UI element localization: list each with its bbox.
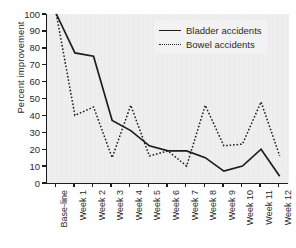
x-tick-label: Base-line [59,190,69,228]
y-tick-mark [42,182,46,183]
y-tick-mark [42,115,46,116]
x-tick-mark [129,183,130,187]
y-tick-mark [42,64,46,65]
y-tick-mark [42,81,46,82]
legend-item: Bladder accidents [159,23,262,37]
x-tick-mark [278,183,279,187]
x-tick-mark [148,183,149,187]
x-tick-mark [241,183,242,187]
x-tick-mark [185,183,186,187]
y-tick-label: 10 [14,160,40,173]
y-tick-label: 90 [14,24,40,37]
x-tick-mark [55,183,56,187]
legend-item-label: Bowel accidents [186,39,255,50]
chart-legend: Bladder accidents Bowel accidents [155,20,267,54]
x-tick-label: Week 2 [97,190,107,220]
y-tick-label: 80 [14,41,40,54]
legend-item: Bowel accidents [159,37,262,51]
x-tick-mark [259,183,260,187]
x-tick-label: Week 11 [264,190,274,225]
y-tick-mark [42,149,46,150]
y-tick-label: 30 [14,126,40,139]
y-tick-mark [42,132,46,133]
dotted-line-icon [159,40,181,49]
x-tick-mark [110,183,111,187]
y-tick-label: 40 [14,109,40,122]
x-tick-label: Week 6 [171,190,181,220]
x-tick-label: Week 10 [245,190,255,225]
y-tick-label: 100 [14,8,40,21]
x-tick-mark [92,183,93,187]
x-tick-mark [222,183,223,187]
x-tick-mark [73,183,74,187]
y-tick-label: 20 [14,143,40,156]
x-tick-label: Week 3 [115,190,125,220]
chart-figure: Percent improvement 01020304050607080901… [0,0,296,248]
solid-line-icon [159,26,181,35]
y-tick-mark [42,165,46,166]
x-tick-label: Week 12 [283,190,293,225]
y-tick-label: 0 [14,177,40,190]
y-tick-label: 50 [14,92,40,105]
y-tick-label: 70 [14,58,40,71]
y-tick-mark [42,30,46,31]
legend-item-label: Bladder accidents [186,25,262,36]
x-tick-label: Week 5 [152,190,162,220]
x-tick-label: Week 9 [227,190,237,220]
y-tick-label: 60 [14,75,40,88]
x-tick-mark [166,183,167,187]
x-tick-label: Week 4 [134,190,144,220]
x-tick-label: Week 1 [78,190,88,220]
x-tick-label: Week 7 [190,190,200,220]
x-tick-label: Week 8 [208,190,218,220]
y-tick-mark [42,13,46,14]
y-tick-mark [42,98,46,99]
x-tick-mark [204,183,205,187]
y-tick-mark [42,47,46,48]
